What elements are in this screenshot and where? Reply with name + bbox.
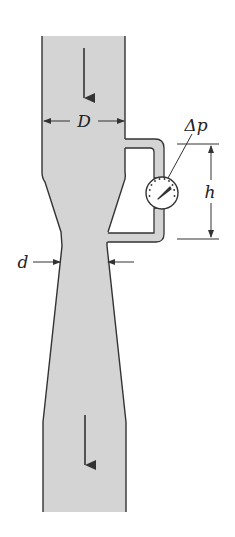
delta-p-leader [168,134,192,178]
label-delta-p: Δp [183,115,207,135]
label-h: h [205,182,216,202]
label-D: D [76,111,91,131]
venturi-diagram: D d Δp [0,0,235,537]
label-d: d [18,252,29,272]
venturi-body [42,36,126,512]
pressure-gauge [146,177,178,209]
dimension-h: h [177,144,219,239]
